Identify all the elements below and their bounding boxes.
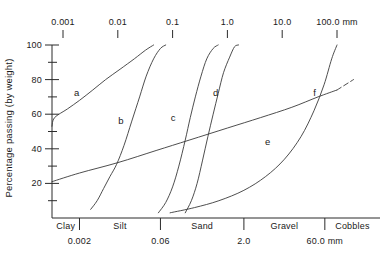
boundary-label-1: 0.06	[151, 237, 169, 246]
soil-class-cobbles: Cobbles	[335, 222, 369, 231]
top-tick-label-2: 0.1	[166, 18, 179, 27]
particle-size-distribution-chart: Percentage passing (by weight) 0.0010.01…	[0, 0, 388, 257]
y-tick-label-2: 60	[18, 110, 42, 119]
boundary-label-3: 60.0 mm	[307, 237, 343, 246]
top-axis-ticks	[63, 30, 337, 38]
soil-class-silt: Silt	[113, 222, 126, 231]
y-tick-label-3: 80	[18, 75, 42, 84]
curve-b	[91, 45, 166, 209]
curve-label-b: b	[118, 116, 123, 126]
y-tick-label-4: 100	[18, 41, 42, 50]
top-tick-label-1: 0.01	[109, 18, 127, 27]
y-tick-label-0: 20	[18, 179, 42, 188]
top-tick-label-4: 10.0	[273, 18, 291, 27]
curve-label-d: d	[213, 88, 218, 98]
top-tick-label-5: 100.0 mm	[316, 18, 358, 27]
soil-class-gravel: Gravel	[271, 222, 299, 231]
curve-e	[52, 90, 337, 182]
y-tick-label-1: 40	[18, 144, 42, 153]
curve-label-c: c	[171, 113, 176, 123]
boundary-label-2: 2.0	[237, 237, 250, 246]
boundary-label-0: 0.002	[68, 237, 92, 246]
curve-f	[170, 45, 337, 213]
soil-class-sand: Sand	[191, 222, 213, 231]
curve-label-f: f	[313, 88, 316, 98]
curves	[52, 45, 354, 213]
curve-a	[52, 45, 154, 126]
top-tick-label-0: 0.001	[51, 18, 75, 27]
top-tick-label-3: 1.0	[221, 18, 234, 27]
soil-class-clay: Clay	[56, 222, 75, 231]
curve-label-a: a	[74, 88, 79, 98]
curve-d	[185, 45, 238, 213]
chart-canvas	[0, 0, 388, 257]
curve-e-dashed-extension	[337, 80, 354, 90]
y-axis-title: Percentage passing (by weight)	[3, 58, 14, 197]
curve-label-e: e	[265, 137, 270, 147]
